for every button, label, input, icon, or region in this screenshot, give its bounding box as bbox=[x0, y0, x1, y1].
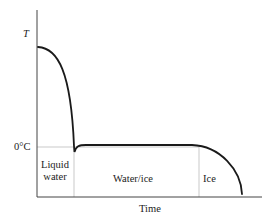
region-liquid-label-line1: Liquid bbox=[41, 159, 69, 171]
x-axis-label: Time bbox=[139, 203, 161, 215]
zero-degree-label: 0°C bbox=[14, 141, 30, 153]
region-ice-label: Ice bbox=[203, 173, 216, 185]
y-axis-label: T bbox=[23, 28, 29, 40]
cooling-curve-diagram bbox=[0, 0, 274, 221]
region-liquid-water-label: Liquid water bbox=[41, 159, 69, 183]
region-liquid-label-line2: water bbox=[41, 171, 69, 183]
region-water-ice-label: Water/ice bbox=[113, 173, 153, 185]
